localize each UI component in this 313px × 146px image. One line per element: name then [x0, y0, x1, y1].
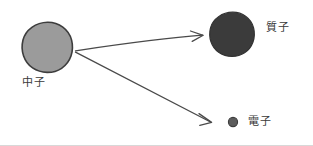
diagram-canvas: 中子 質子 電子 — [0, 0, 313, 146]
arrow-neutron-to-proton — [76, 31, 204, 51]
electron-circle[interactable] — [228, 117, 237, 126]
neutron-circle[interactable] — [22, 22, 72, 72]
electron-label: 電子 — [248, 115, 271, 128]
arrow-neutron-to-electron — [76, 52, 212, 125]
proton-circle[interactable] — [210, 12, 255, 56]
proton-label: 質子 — [266, 21, 289, 34]
bottom-divider — [0, 145, 313, 146]
neutron-label: 中子 — [22, 76, 45, 89]
